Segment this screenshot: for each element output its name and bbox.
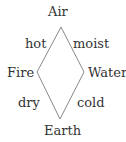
node-fire: Fire <box>7 66 34 79</box>
node-air: Air <box>48 5 68 18</box>
edge-label-hot: hot <box>25 37 46 50</box>
edge-label-dry: dry <box>18 96 40 109</box>
elements-diagram: Air Fire Water Earth hot moist dry cold <box>0 0 126 142</box>
node-earth: Earth <box>44 124 81 137</box>
node-water: Water <box>88 66 126 79</box>
edge-label-moist: moist <box>73 37 109 50</box>
edge-label-cold: cold <box>77 96 105 109</box>
